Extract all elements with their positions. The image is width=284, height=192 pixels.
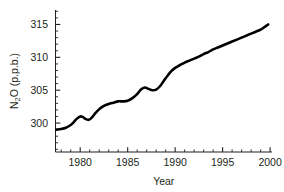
n2o-line-chart: 300305310315 19801985199019952000 Year N… (0, 0, 284, 192)
y-axis-title: N2O (p.p.b.) (8, 53, 22, 109)
x-tick-label: 1995 (211, 156, 235, 168)
x-tick-label: 1985 (116, 156, 140, 168)
svg-text:N2O (p.p.b.): N2O (p.p.b.) (8, 53, 22, 109)
y-tick-label: 315 (30, 18, 48, 30)
x-axis-title: Year (153, 175, 175, 187)
x-axis-tick-labels: 19801985199019952000 (69, 156, 282, 168)
y-tick-label: 310 (30, 51, 48, 63)
x-tick-label: 1990 (163, 156, 187, 168)
x-tick-label: 2000 (258, 156, 282, 168)
y-axis-major-ticks (56, 24, 61, 123)
y-axis-tick-labels: 300305310315 (30, 18, 48, 129)
data-series-line (56, 24, 268, 129)
x-tick-label: 1980 (69, 156, 93, 168)
y-tick-label: 300 (30, 117, 48, 129)
chart-figure: 300305310315 19801985199019952000 Year N… (0, 0, 284, 192)
y-tick-label: 305 (30, 84, 48, 96)
